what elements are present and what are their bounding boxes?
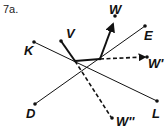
label-d: D bbox=[26, 106, 36, 121]
label-v: V bbox=[66, 26, 76, 41]
point-w-double-prime bbox=[110, 116, 114, 120]
vector-w-double-prime bbox=[75, 61, 111, 117]
vector-w-prime bbox=[100, 57, 145, 59]
label-w-prime: W' bbox=[148, 56, 164, 71]
diagram-canvas: 7a. K L D E V W W' W'' bbox=[0, 0, 168, 130]
point-v bbox=[59, 39, 63, 43]
label-e: E bbox=[144, 28, 153, 43]
point-l bbox=[155, 99, 159, 103]
vertex-a bbox=[74, 60, 77, 63]
label-k: K bbox=[24, 43, 35, 58]
label-w-double-prime: W'' bbox=[116, 114, 135, 129]
vertex-b bbox=[99, 58, 102, 61]
line-de bbox=[35, 26, 145, 104]
label-w: W bbox=[109, 2, 123, 17]
problem-label: 7a. bbox=[3, 3, 18, 15]
label-l: L bbox=[152, 106, 160, 121]
